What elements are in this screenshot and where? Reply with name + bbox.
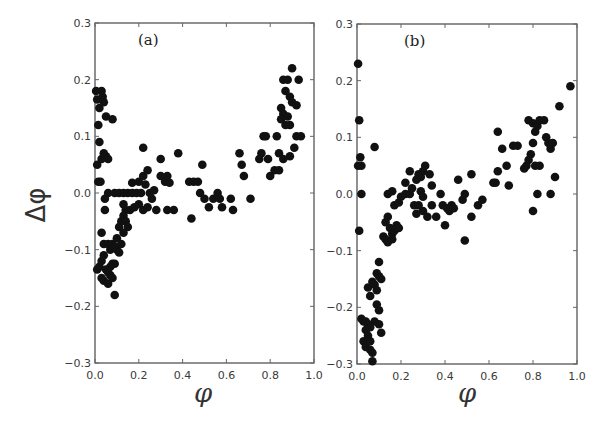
y-tick-label: 0.3 — [74, 17, 92, 30]
data-point — [366, 292, 375, 301]
data-point — [290, 143, 299, 152]
y-tick-label: 0.0 — [74, 187, 92, 200]
y-tick-label: −0.2 — [64, 300, 91, 313]
data-point — [566, 82, 575, 91]
data-point — [555, 102, 564, 111]
y-tick-label: 0.2 — [74, 74, 92, 87]
data-point — [229, 206, 238, 215]
data-point — [101, 206, 110, 215]
data-point — [428, 181, 437, 190]
panel-b-x-axis-label: φ — [458, 378, 477, 408]
data-point — [368, 348, 377, 357]
data-point — [94, 121, 103, 130]
data-point — [375, 306, 384, 315]
x-tick-label: 1.0 — [305, 369, 323, 382]
data-point — [388, 235, 397, 244]
data-point — [513, 142, 522, 151]
y-tick-label: −0.3 — [64, 357, 91, 370]
y-tick-label: 0.0 — [336, 188, 354, 201]
data-point — [461, 190, 470, 199]
y-axis-label: Δφ — [21, 188, 51, 223]
x-tick-label: 0.6 — [480, 370, 498, 383]
data-point — [355, 116, 364, 125]
data-point — [218, 203, 227, 212]
data-point — [237, 160, 246, 169]
data-point — [491, 178, 500, 187]
data-point — [262, 132, 271, 141]
x-tick-label: 0.2 — [392, 370, 410, 383]
x-tick-label: 0.8 — [261, 369, 279, 382]
data-point — [288, 64, 297, 73]
data-point — [110, 260, 119, 269]
x-tick-label: 0.0 — [348, 370, 366, 383]
data-point — [436, 190, 445, 199]
data-point — [454, 176, 463, 185]
data-point — [187, 214, 196, 223]
data-point — [97, 228, 106, 237]
data-point — [377, 275, 386, 284]
panel-a-label: (a) — [138, 31, 159, 49]
data-point — [478, 195, 487, 204]
data-point — [384, 212, 393, 221]
y-tick-label: −0.1 — [326, 245, 353, 258]
data-point — [294, 75, 303, 84]
data-point — [406, 167, 415, 176]
data-point — [292, 101, 301, 110]
x-tick-label: 0.4 — [174, 369, 192, 382]
data-point — [540, 116, 549, 125]
data-point — [467, 212, 476, 221]
data-point — [395, 224, 404, 233]
x-tick-label: 0.0 — [86, 369, 104, 382]
data-point — [357, 161, 366, 170]
data-point — [104, 155, 113, 164]
y-tick-label: −0.2 — [326, 301, 353, 314]
data-point — [467, 170, 476, 179]
data-point — [227, 194, 236, 203]
y-tick-label: −0.1 — [64, 244, 91, 257]
data-point — [257, 149, 266, 158]
svg-text:Δφ: Δφ — [21, 188, 51, 223]
data-point — [529, 207, 538, 216]
data-point — [423, 212, 432, 221]
figure: Δφ 0.00.20.40.60.81.00.30.20.10.0−0.1−0.… — [0, 0, 610, 426]
panel-a: 0.00.20.40.60.81.00.30.20.10.0−0.1−0.2−0… — [64, 17, 322, 408]
data-point — [355, 227, 364, 236]
data-point — [419, 193, 428, 202]
panel-b-points — [354, 59, 575, 365]
data-point — [357, 190, 366, 199]
data-point — [156, 155, 165, 164]
data-point — [216, 194, 225, 203]
data-point — [388, 187, 397, 196]
data-point — [428, 201, 437, 210]
data-point — [264, 155, 273, 164]
data-point — [198, 160, 207, 169]
data-point — [205, 203, 214, 212]
data-point — [96, 177, 105, 186]
data-point — [551, 173, 560, 182]
data-point — [246, 194, 255, 203]
data-point — [148, 194, 157, 203]
data-point — [441, 221, 450, 230]
data-point — [108, 115, 117, 124]
data-point — [150, 186, 159, 195]
data-point — [494, 127, 503, 136]
data-point — [174, 149, 183, 158]
data-point — [139, 143, 148, 152]
data-point — [535, 161, 544, 170]
data-point — [354, 59, 363, 68]
data-point — [143, 203, 152, 212]
data-point — [101, 194, 110, 203]
x-tick-label: 0.4 — [436, 370, 454, 383]
data-point — [194, 177, 203, 186]
data-point — [110, 291, 119, 300]
y-tick-label: 0.1 — [336, 131, 354, 144]
data-point — [502, 161, 511, 170]
data-point — [377, 329, 386, 338]
data-point — [364, 283, 373, 292]
data-point — [119, 228, 128, 237]
data-point — [297, 132, 306, 141]
data-point — [286, 121, 295, 130]
data-point — [100, 98, 109, 107]
x-tick-label: 1.0 — [568, 370, 586, 383]
panel-b-label: (b) — [404, 32, 425, 50]
